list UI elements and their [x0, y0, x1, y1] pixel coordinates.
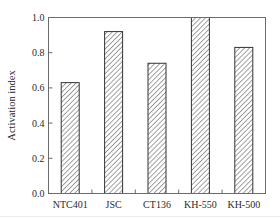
- y-axis-title: Activation index: [6, 70, 17, 141]
- y-tick-label: 0.2: [32, 153, 45, 164]
- x-tick-label: KH-550: [184, 199, 217, 210]
- y-tick-label: 1.0: [32, 12, 45, 23]
- x-tick-label: KH-500: [227, 199, 260, 210]
- bar-ntc401: [61, 83, 79, 194]
- bar-jsc: [105, 32, 123, 194]
- bars: [61, 18, 253, 194]
- x-tick-label: JSC: [106, 199, 122, 210]
- y-tick-label: 0.4: [32, 118, 45, 129]
- y-tick-label: 0.6: [32, 82, 45, 93]
- y-axis-ticks: 0.00.20.40.60.81.0: [32, 12, 53, 199]
- bar-chart: Activation index 0.00.20.40.60.81.0 NTC4…: [0, 0, 280, 221]
- bar-kh-550: [191, 18, 209, 194]
- x-tick-label: CT136: [143, 199, 171, 210]
- y-axis-title-group: Activation index: [6, 70, 17, 141]
- bar-ct136: [148, 63, 166, 193]
- bottom-divider: [0, 216, 280, 217]
- bar-kh-500: [235, 47, 253, 193]
- y-tick-label: 0.8: [32, 47, 45, 58]
- y-tick-label: 0.0: [32, 188, 45, 199]
- x-tick-label: NTC401: [53, 199, 88, 210]
